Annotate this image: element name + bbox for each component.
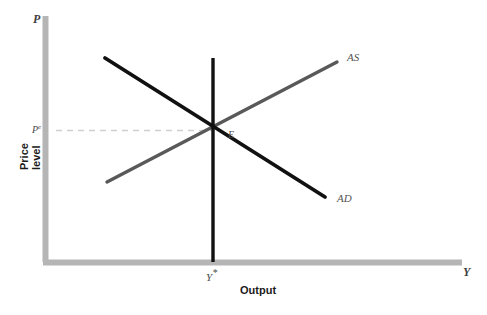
y-axis-title-wrapper: Price level <box>2 92 24 172</box>
ad-curve-label: AD <box>337 193 352 204</box>
ad-curve <box>105 58 325 197</box>
y-axis-title: Price level <box>18 143 42 170</box>
ad-as-diagram <box>0 0 487 315</box>
x-axis-end-letter: Y <box>463 266 470 278</box>
chart-canvas: P Y Price level Output AS AD E Pe Y* <box>0 0 487 315</box>
equilibrium-price-superscript: e <box>38 123 41 131</box>
x-axis-title: Output <box>240 285 276 296</box>
as-curve-label: AS <box>347 52 359 63</box>
y-axis-end-letter: P <box>33 13 40 25</box>
equilibrium-output-superscript: * <box>212 267 217 278</box>
equilibrium-point-label: E <box>228 130 234 140</box>
equilibrium-price-label: Pe <box>32 124 41 135</box>
equilibrium-output-label: Y* <box>206 268 217 283</box>
